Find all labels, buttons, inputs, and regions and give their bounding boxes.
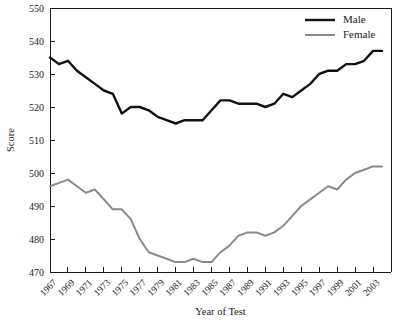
- chart-legend: MaleFemale: [305, 13, 375, 40]
- x-tick-label: 1991: [253, 277, 274, 298]
- x-tick-label: 1985: [200, 277, 221, 298]
- y-tick-label: 520: [29, 102, 44, 113]
- axes-layer: [50, 8, 391, 272]
- y-tick-label: 490: [29, 201, 44, 212]
- axis-frame: [50, 8, 391, 272]
- x-tick-label: 1971: [74, 277, 95, 298]
- x-tick-label: 1969: [56, 277, 77, 298]
- series-line-male: [50, 51, 382, 124]
- x-tick-label: 1977: [128, 277, 149, 298]
- y-tick-label: 550: [29, 3, 44, 14]
- x-tick-label: 1979: [146, 277, 167, 298]
- data-series-layer: [50, 51, 382, 262]
- y-tick-label: 500: [29, 168, 44, 179]
- y-tick-label: 530: [29, 69, 44, 80]
- x-tick-label: 1993: [271, 277, 292, 298]
- chart-container: 470480490500510520530540550 196719691971…: [0, 0, 416, 326]
- x-tick-label: 1967: [38, 277, 59, 298]
- legend-label-male: Male: [343, 13, 366, 25]
- x-tick-label: 1989: [235, 277, 256, 298]
- x-tick-label: 1975: [110, 277, 131, 298]
- x-tick-label: 1997: [307, 277, 328, 298]
- series-line-female: [50, 166, 382, 262]
- x-tick-label: 1983: [182, 277, 203, 298]
- y-tick-label: 540: [29, 36, 44, 47]
- x-axis-title: Year of Test: [195, 306, 246, 317]
- x-tick-label: 1995: [289, 277, 310, 298]
- y-tick-label: 480: [29, 234, 44, 245]
- y-axis-ticks: 470480490500510520530540550: [29, 3, 55, 278]
- legend-label-female: Female: [343, 28, 375, 40]
- x-tick-label: 1999: [325, 277, 346, 298]
- x-tick-label: 1973: [92, 277, 113, 298]
- x-tick-label: 1987: [217, 277, 238, 298]
- y-tick-label: 510: [29, 135, 44, 146]
- x-tick-label: 2003: [361, 277, 382, 298]
- x-tick-label: 2001: [343, 277, 364, 298]
- y-axis-title: Score: [5, 128, 16, 152]
- y-tick-label: 470: [29, 267, 44, 278]
- line-chart-figure: 470480490500510520530540550 196719691971…: [0, 0, 416, 326]
- x-tick-label: 1981: [164, 277, 185, 298]
